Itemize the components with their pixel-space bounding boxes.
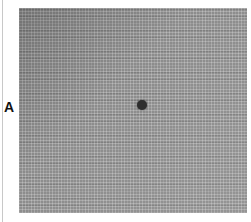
dot-marker-icon xyxy=(137,100,147,110)
left-border-divider xyxy=(2,0,3,222)
image-panel xyxy=(19,8,247,213)
panel-label: A xyxy=(4,100,14,114)
figure-panel-container: A xyxy=(0,0,251,222)
